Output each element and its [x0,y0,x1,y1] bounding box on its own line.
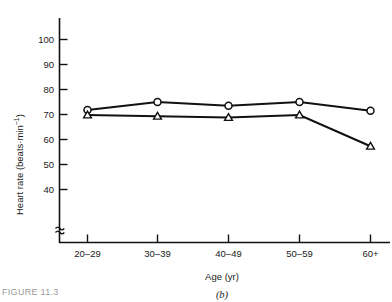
x-axis-tick-labels: 20–29 30–39 40–49 50–59 60+ [74,248,379,259]
y-tick-label-80: 80 [43,84,54,95]
series-circle-series [84,99,374,115]
y-tick-label-60: 60 [43,134,54,145]
y-tick-label-40: 40 [43,184,54,195]
data-point-circle-30-39 [154,99,161,106]
series-triangle-series [84,111,375,149]
data-point-triangle-50-59 [296,111,304,118]
x-tick-label-20-29: 20–29 [74,248,100,259]
x-axis-title: Age (yr) [205,271,239,282]
y-tick-label-50: 50 [43,159,54,170]
data-point-circle-50-59 [296,99,303,106]
y-tick-label-90: 90 [43,59,54,70]
data-point-triangle-40-49 [225,114,233,121]
x-tick-label-50-59: 50–59 [286,248,312,259]
y-axis-tick-labels: 100 90 80 70 60 50 40 [38,34,54,195]
x-axis-ticks [88,235,371,243]
x-tick-label-40-49: 40–49 [215,248,241,259]
y-axis-ticks [60,40,68,190]
data-point-triangle-60plus [367,142,375,149]
data-point-circle-40-49 [225,102,232,109]
data-point-circle-60plus [367,107,374,114]
line-chart: 100 90 80 70 60 50 40 20–29 30–39 40–49 … [0,0,392,302]
x-tick-label-60plus: 60+ [362,248,379,259]
data-point-triangle-30-39 [154,112,162,119]
axes-group [59,18,390,243]
figure-panel: Heart rate (beats·min−1) 100 90 80 70 60… [0,0,392,302]
figure-caption-partial: FIGURE 11.3 [2,288,59,297]
y-tick-label-70: 70 [43,109,54,120]
caption-strip: FIGURE 11.3 [0,288,392,302]
x-tick-label-30-39: 30–39 [144,248,170,259]
y-tick-label-100: 100 [38,34,54,45]
